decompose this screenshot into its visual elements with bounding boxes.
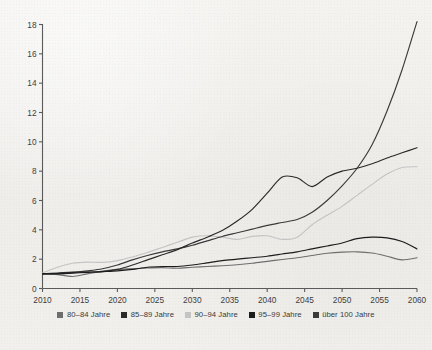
x-axis-tick-label: 2045 [295, 295, 314, 305]
legend-item-label: 80–84 Jahre [67, 310, 110, 319]
legend-item-label: 95–99 Jahre [258, 310, 301, 319]
legend-item[interactable]: über 100 Jahre [313, 310, 375, 319]
legend-item-label: 85–89 Jahre [131, 310, 174, 319]
legend-swatch-icon [121, 312, 127, 318]
legend-item-label: über 100 Jahre [322, 310, 374, 319]
chart-plot-area: 0246810121416182010201520202025203020352… [0, 0, 432, 350]
y-axis-tick-label: 4 [32, 225, 37, 235]
x-axis-tick-label: 2055 [370, 295, 389, 305]
series-line [43, 148, 418, 274]
legend-swatch-icon [57, 312, 63, 318]
x-axis-tick-label: 2030 [183, 295, 202, 305]
legend-swatch-icon [185, 312, 191, 318]
series-line [43, 237, 418, 274]
series-line [43, 252, 418, 277]
x-axis-tick-label: 2035 [221, 295, 240, 305]
legend-item[interactable]: 90–94 Jahre [185, 310, 238, 319]
legend-item[interactable]: 80–84 Jahre [57, 310, 110, 319]
y-axis-tick-label: 8 [32, 166, 37, 176]
x-axis-tick-label: 2010 [33, 295, 52, 305]
legend-swatch-icon [249, 312, 255, 318]
y-axis-tick-label: 18 [27, 20, 37, 30]
legend-item[interactable]: 85–89 Jahre [121, 310, 174, 319]
chart-legend: 80–84 Jahre85–89 Jahre90–94 Jahre95–99 J… [0, 310, 432, 319]
legend-swatch-icon [313, 312, 319, 318]
y-axis-tick-label: 12 [27, 108, 37, 118]
y-axis-tick-label: 14 [27, 78, 37, 88]
x-axis-tick-label: 2025 [146, 295, 165, 305]
x-axis-tick-label: 2015 [71, 295, 90, 305]
y-axis-tick-label: 2 [32, 254, 37, 264]
x-axis-tick-label: 2050 [333, 295, 352, 305]
y-axis-tick-label: 10 [27, 137, 37, 147]
legend-item[interactable]: 95–99 Jahre [249, 310, 302, 319]
series-line [43, 167, 418, 273]
series-line [43, 22, 418, 274]
y-axis-tick-label: 6 [32, 196, 37, 206]
line-chart: 0246810121416182010201520202025203020352… [0, 0, 432, 350]
x-axis-tick-label: 2060 [408, 295, 427, 305]
legend-item-label: 90–94 Jahre [195, 310, 238, 319]
y-axis-tick-label: 0 [32, 284, 37, 294]
y-axis-tick-label: 16 [27, 49, 37, 59]
x-axis-tick-label: 2020 [108, 295, 127, 305]
x-axis-tick-label: 2040 [258, 295, 277, 305]
